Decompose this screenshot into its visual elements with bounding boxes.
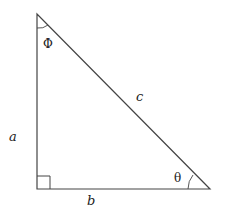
side-label-b: b <box>87 193 95 208</box>
angle-arc-theta <box>188 175 193 189</box>
angle-arc-phi <box>37 25 48 28</box>
right-angle-marker <box>37 176 50 189</box>
angle-label-phi: Φ <box>43 37 53 51</box>
side-label-a: a <box>9 129 17 144</box>
angle-label-theta: θ <box>174 171 181 185</box>
triangle-diagram: Φ a c θ b <box>0 0 225 218</box>
side-label-c: c <box>136 89 144 104</box>
triangle-outline <box>37 14 210 189</box>
triangle-svg: Φ a c θ b <box>0 0 225 218</box>
